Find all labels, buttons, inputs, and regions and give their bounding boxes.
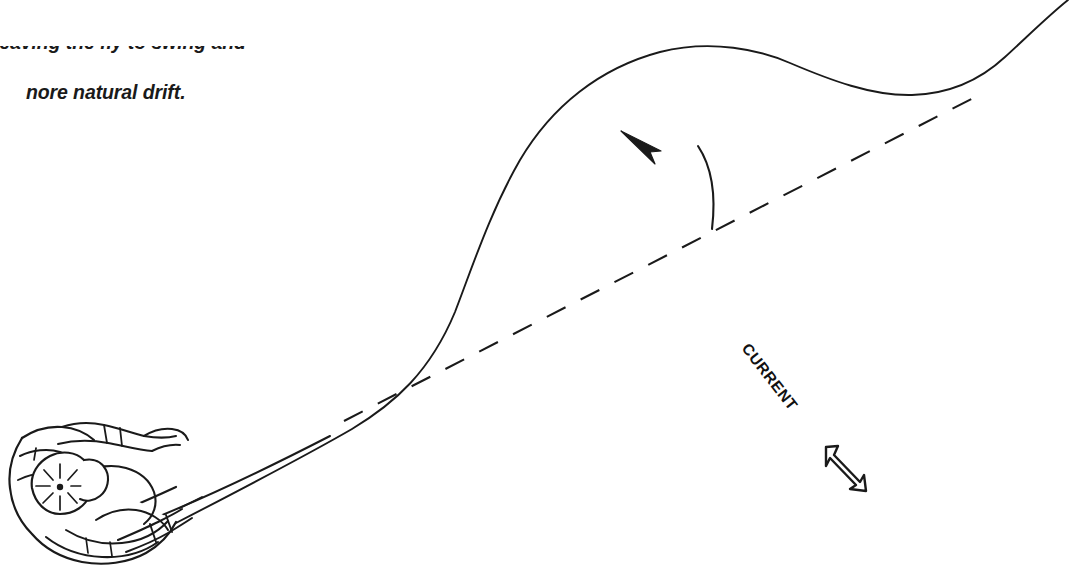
current-direction-arrow <box>826 446 866 491</box>
rod-grip-top <box>144 429 188 451</box>
straight-reference-line <box>344 92 985 421</box>
angler-hand-assembly <box>10 423 331 563</box>
index-finger <box>58 423 176 451</box>
fly-fishing-mend-diagram <box>0 0 1080 572</box>
figure-root: leaving the fly to swing and nore natura… <box>0 0 1080 572</box>
mend-direction-arrow <box>621 131 713 229</box>
reel-hub <box>57 484 63 490</box>
fly-line-curve <box>176 0 1068 523</box>
